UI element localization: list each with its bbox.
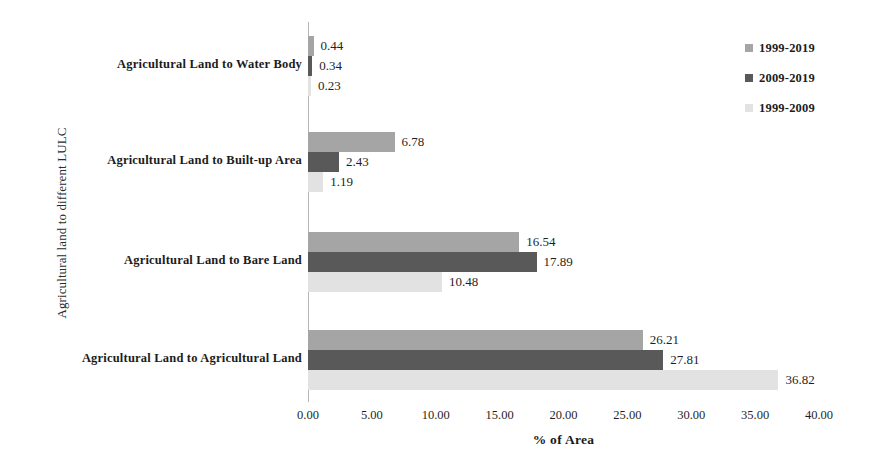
- bar-value-label: 10.48: [449, 272, 478, 292]
- category-label: Agricultural Land to Bare Land: [40, 253, 302, 268]
- bar-value-label: 16.54: [526, 232, 555, 252]
- bar-value-label: 6.78: [402, 132, 425, 152]
- legend-item[interactable]: 1999-2019: [745, 33, 875, 63]
- x-axis-tick: 5.00: [342, 408, 402, 423]
- legend-swatch-icon: [745, 44, 753, 52]
- legend-item[interactable]: 1999-2009: [745, 93, 875, 123]
- bar-value-label: 0.23: [318, 76, 341, 96]
- bar: [308, 232, 519, 252]
- bar: [308, 272, 442, 292]
- bar: [308, 252, 537, 272]
- legend-label: 1999-2009: [759, 101, 815, 116]
- bar-value-label: 17.89: [544, 252, 573, 272]
- bar-value-label: 0.44: [321, 36, 344, 56]
- bar-value-label: 1.19: [330, 172, 353, 192]
- bar: [308, 330, 643, 350]
- bar: [308, 350, 663, 370]
- x-axis-title: % of Area: [308, 432, 819, 448]
- x-axis-tick: 35.00: [725, 408, 785, 423]
- x-axis-tick: 0.00: [278, 408, 338, 423]
- bar: [308, 370, 778, 390]
- bar: [308, 152, 339, 172]
- bar: [308, 76, 311, 96]
- bar-value-label: 2.43: [346, 152, 369, 172]
- bar-value-label: 26.21: [650, 330, 679, 350]
- legend-item[interactable]: 2009-2019: [745, 63, 875, 93]
- y-axis-title: Agricultural land to different LULC: [54, 73, 70, 373]
- bar-chart: Agricultural land to different LULC Agri…: [0, 0, 879, 474]
- plot-area: 0.440.340.236.782.431.1916.5417.8910.482…: [308, 22, 819, 400]
- category-label: Agricultural Land to Water Body: [40, 57, 302, 72]
- category-label: Agricultural Land to Built-up Area: [40, 153, 302, 168]
- chart-legend: 1999-20192009-20191999-2009: [745, 33, 875, 123]
- bar: [308, 172, 323, 192]
- bar: [308, 56, 312, 76]
- x-axis-tick: 15.00: [470, 408, 530, 423]
- x-axis-tick: 10.00: [406, 408, 466, 423]
- bar-value-label: 0.34: [319, 56, 342, 76]
- x-axis-tick: 20.00: [534, 408, 594, 423]
- bar: [308, 132, 395, 152]
- bar-value-label: 27.81: [670, 350, 699, 370]
- legend-swatch-icon: [745, 74, 753, 82]
- x-axis-tick: 25.00: [597, 408, 657, 423]
- x-axis-tick: 40.00: [789, 408, 849, 423]
- legend-label: 1999-2019: [759, 41, 815, 56]
- x-axis-tick: 30.00: [661, 408, 721, 423]
- bar-value-label: 36.82: [785, 370, 814, 390]
- legend-swatch-icon: [745, 104, 753, 112]
- category-label: Agricultural Land to Agricultural Land: [40, 351, 302, 366]
- bar: [308, 36, 314, 56]
- legend-label: 2009-2019: [759, 71, 815, 86]
